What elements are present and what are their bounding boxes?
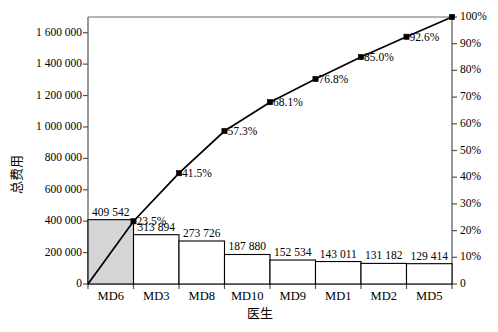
category-label-md10: MD10 xyxy=(225,290,271,303)
cumulative-percent-label-md8: 57.3% xyxy=(228,126,274,138)
cumulative-percent-label-md2: 92.6% xyxy=(410,32,456,44)
cumulative-markers xyxy=(131,14,455,223)
cumulative-percent-label-md1: 85.0% xyxy=(364,52,410,64)
cumulative-percent-label-md6: 23.5% xyxy=(137,216,183,228)
right-axis-tick-label: 10% xyxy=(460,251,498,263)
left-axis-tick-label: 0 xyxy=(0,278,82,290)
category-label-md5: MD5 xyxy=(407,290,453,303)
right-axis-tick-label: 80% xyxy=(460,64,498,76)
category-label-md3: MD3 xyxy=(134,290,180,303)
cumulative-percent-label-md3: 41.5% xyxy=(182,168,228,180)
right-axis-tick-label: 50% xyxy=(460,145,498,157)
left-axis-tick-label: 1 200 000 xyxy=(0,90,82,102)
right-axis-tick-label: 30% xyxy=(460,198,498,210)
right-axis-tick-label: 0 xyxy=(460,278,498,290)
category-label-md2: MD2 xyxy=(361,290,407,303)
right-axis-tick-label: 20% xyxy=(460,225,498,237)
category-label-md1: MD1 xyxy=(316,290,362,303)
right-axis-tick-label: 60% xyxy=(460,118,498,130)
left-axis-tick-label: 1 000 000 xyxy=(0,121,82,133)
category-label-md6: MD6 xyxy=(88,290,134,303)
x-axis-title: 医生 xyxy=(230,307,290,320)
right-axis-tick-label: 70% xyxy=(460,91,498,103)
bar-value-label-md5: 129 414 xyxy=(403,251,457,263)
right-axis-tick-label: 100% xyxy=(460,11,498,23)
bar-value-label-md8: 273 726 xyxy=(175,228,229,240)
left-axis-tick-label: 1 400 000 xyxy=(0,58,82,70)
right-axis-ticks xyxy=(452,17,457,284)
category-label-md8: MD8 xyxy=(179,290,225,303)
right-axis-tick-label: 40% xyxy=(460,171,498,183)
category-label-md9: MD9 xyxy=(270,290,316,303)
bar-value-label-md6: 409 542 xyxy=(84,207,138,219)
left-axis-tick-label: 400 000 xyxy=(0,215,82,227)
right-axis-tick-label: 90% xyxy=(460,38,498,50)
left-axis-tick-label: 1 600 000 xyxy=(0,27,82,39)
left-axis-tick-label: 200 000 xyxy=(0,247,82,259)
cumulative-percent-label-md9: 76.8% xyxy=(319,74,365,86)
pareto-chart: 0200 000400 000600 000800 0001 000 0001 … xyxy=(0,0,498,332)
cumulative-percent-label-md10: 68.1% xyxy=(273,97,319,109)
y-axis-title: 总费用 xyxy=(10,145,23,205)
left-axis-ticks xyxy=(83,33,88,284)
